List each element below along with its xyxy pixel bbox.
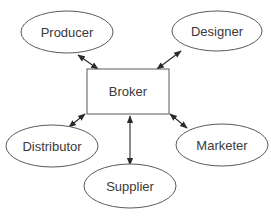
node-producer: Producer <box>21 11 113 53</box>
node-designer-label: Designer <box>191 24 244 39</box>
edge-broker-distributor <box>69 114 85 127</box>
node-broker-label: Broker <box>109 84 148 99</box>
node-producer-label: Producer <box>41 25 94 40</box>
node-distributor: Distributor <box>6 125 98 167</box>
node-supplier: Supplier <box>84 164 176 208</box>
edge-broker-producer <box>78 55 98 69</box>
node-broker: Broker <box>87 69 169 114</box>
node-marketer: Marketer <box>176 124 268 166</box>
edge-broker-marketer <box>170 114 187 128</box>
broker-diagram: Broker Producer Designer Distributor Mar… <box>0 0 271 216</box>
edge-broker-designer <box>157 51 181 69</box>
node-marketer-label: Marketer <box>196 138 248 153</box>
node-supplier-label: Supplier <box>106 179 154 194</box>
node-distributor-label: Distributor <box>22 139 82 154</box>
node-designer: Designer <box>172 11 262 51</box>
